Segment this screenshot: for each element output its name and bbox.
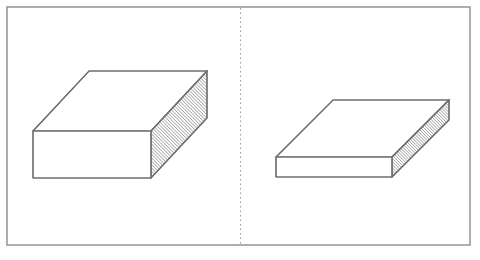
thin-stack-front-face	[276, 157, 392, 177]
thick-stack-front-face	[33, 131, 151, 178]
figure-drawing	[0, 0, 480, 260]
figure-canvas	[0, 0, 480, 260]
